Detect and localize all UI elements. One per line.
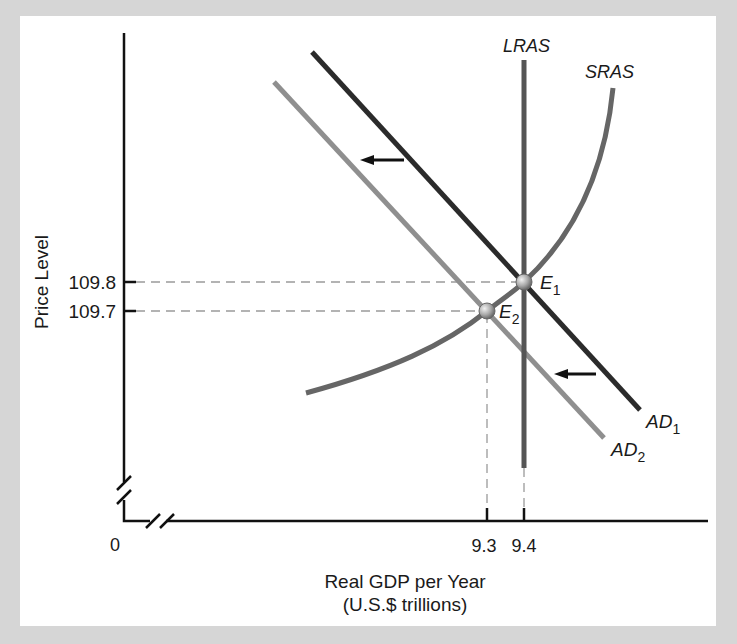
y-tick-label-109-8: 109.8 (68, 272, 116, 293)
equilibrium-e1-point (516, 274, 532, 290)
y-axis-lower (124, 500, 150, 521)
x-tick-label-9-4: 9.4 (511, 536, 536, 556)
y-axis-title: Price Level (31, 235, 52, 329)
equilibrium-e2-point (479, 303, 495, 319)
x-axis-subtitle: (U.S.$ trillions) (343, 594, 468, 615)
chart-svg: LRAS SRAS AD1 AD2 E1 E2 109.8 109.7 9.3 … (0, 0, 737, 644)
y-tick-label-109-7: 109.7 (68, 301, 116, 322)
ad2-label: AD2 (610, 439, 645, 465)
x-axis-title: Real GDP per Year (324, 571, 486, 592)
x-tick-label-9-3: 9.3 (471, 536, 496, 556)
ad2-line (274, 82, 604, 438)
e2-label: E2 (499, 301, 520, 327)
shift-arrow-upper (360, 155, 404, 165)
origin-label: 0 (110, 535, 120, 555)
guide-lines (136, 282, 524, 508)
shift-arrow-lower (554, 369, 596, 379)
lras-label: LRAS (503, 36, 550, 56)
sras-label: SRAS (585, 62, 634, 82)
sras-curve (306, 88, 613, 393)
e1-label: E1 (540, 272, 561, 298)
ad1-line (312, 52, 640, 410)
ad1-label: AD1 (645, 411, 680, 437)
